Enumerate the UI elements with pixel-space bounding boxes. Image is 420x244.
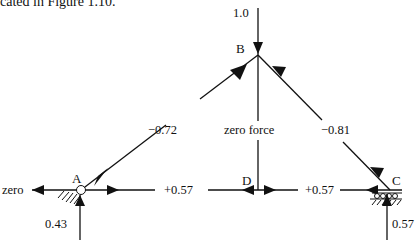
reaction-label-C-vertical: 0.57: [392, 218, 414, 231]
member-label-AB: −0.72: [148, 124, 177, 137]
member-label-BC: −0.81: [321, 124, 350, 137]
reaction-A-vertical: [75, 195, 85, 240]
reaction-A-horizontal: [32, 185, 81, 195]
member-label-DC: +0.57: [305, 184, 334, 197]
load-arrow-B: [253, 8, 263, 55]
member-label-AD: +0.57: [164, 184, 193, 197]
node-label-A: A: [72, 172, 81, 185]
node-label-D: D: [242, 174, 251, 187]
member-label-BD: zero force: [224, 124, 274, 137]
reaction-label-A-horizontal: zero: [2, 184, 24, 197]
reaction-label-A-vertical: 0.43: [45, 218, 67, 231]
node-label-C: C: [392, 174, 401, 187]
truss-diagram: [0, 0, 420, 244]
load-label-B: 1.0: [233, 7, 249, 20]
node-label-B: B: [236, 42, 245, 55]
pin-A: [77, 186, 86, 195]
pin-support-A: [58, 191, 80, 204]
